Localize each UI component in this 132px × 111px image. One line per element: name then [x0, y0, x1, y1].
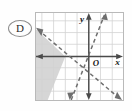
positive-line-arrow-up — [101, 13, 108, 20]
graph-canvas: y x O — [36, 13, 123, 100]
coordinate-graph: y x O — [35, 12, 124, 101]
answer-choice-marker[interactable]: D — [8, 20, 32, 37]
y-axis-arrow-down — [86, 93, 92, 100]
x-axis-label: x — [114, 57, 120, 67]
y-axis-arrow-up — [86, 13, 92, 20]
graph-figure: D — [0, 0, 132, 111]
negative-line-arrow-downright — [115, 92, 122, 100]
y-axis-label: y — [79, 14, 85, 24]
origin-label: O — [93, 58, 100, 68]
boundary-line-positive-slope — [71, 15, 104, 100]
positive-line-arrow-down — [67, 92, 74, 100]
answer-choice-letter: D — [16, 23, 24, 34]
